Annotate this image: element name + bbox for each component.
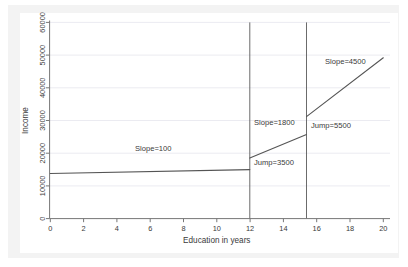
x-tick-label: 10 <box>213 224 221 233</box>
x-tick-label: 8 <box>181 224 185 233</box>
x-tick-label: 6 <box>148 224 152 233</box>
series-segment-2 <box>250 135 307 159</box>
series-segment-1 <box>50 170 250 174</box>
y-tick-label: 40000 <box>38 78 47 99</box>
x-tick-label: 14 <box>279 224 287 233</box>
x-tick-label: 4 <box>115 224 119 233</box>
y-tick-label: 20000 <box>38 143 47 164</box>
jump-3500-label: Jump=3500 <box>254 158 294 167</box>
y-axis-title: Income <box>21 107 30 134</box>
x-tick-label: 18 <box>346 224 354 233</box>
x-tick-label: 16 <box>313 224 321 233</box>
chart-annotations: Slope=100 Slope=1800 Jump=3500 Slope=450… <box>135 57 366 168</box>
income-series <box>50 58 383 174</box>
x-tick-labels: 0 2 4 6 8 10 12 14 16 18 20 <box>48 224 387 233</box>
x-tick-label: 2 <box>82 224 86 233</box>
x-axis-title: Education in years <box>183 236 250 245</box>
y-tick-label: 10000 <box>38 176 47 197</box>
jump-5500-label: Jump=5500 <box>311 121 351 130</box>
axes <box>50 21 390 219</box>
y-tick-labels: 60000 50000 40000 30000 20000 10000 0 <box>38 12 47 221</box>
y-gridlines <box>50 22 390 186</box>
series-segment-3 <box>307 58 384 117</box>
x-axis-ticks <box>50 219 383 223</box>
chart-figure: 60000 50000 40000 30000 20000 10000 0 In… <box>0 0 408 267</box>
y-tick-label: 30000 <box>38 110 47 131</box>
slope-1800-label: Slope=1800 <box>254 118 295 127</box>
slope-100-label: Slope=100 <box>135 144 172 153</box>
x-tick-label: 20 <box>379 224 387 233</box>
income-education-chart: 60000 50000 40000 30000 20000 10000 0 In… <box>0 0 408 267</box>
y-tick-label: 50000 <box>38 45 47 66</box>
y-tick-label: 0 <box>38 217 47 221</box>
y-tick-label: 60000 <box>38 12 47 33</box>
x-tick-label: 0 <box>48 224 52 233</box>
slope-4500-label: Slope=4500 <box>325 57 366 66</box>
x-tick-label: 12 <box>246 224 254 233</box>
